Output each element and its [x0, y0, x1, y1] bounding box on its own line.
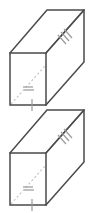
figure-canvas — [0, 0, 96, 213]
upper-prism-front-face — [10, 53, 46, 105]
lower-prism-front-face — [10, 153, 46, 205]
upper-prism — [10, 10, 84, 111]
lower-prism — [10, 110, 84, 211]
prisms-diagram — [0, 0, 96, 213]
